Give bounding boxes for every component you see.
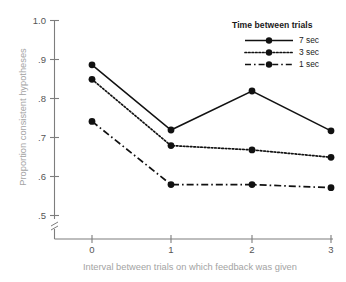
series-1-sec xyxy=(89,118,335,191)
y-tick-label: 1.0 xyxy=(20,15,46,26)
legend-label: 7 sec xyxy=(299,35,319,45)
x-tick-label: 1 xyxy=(161,244,181,255)
data-point xyxy=(249,181,256,188)
data-point xyxy=(328,127,335,134)
data-point xyxy=(89,76,96,83)
legend-item-1-sec: 1 sec xyxy=(244,58,340,70)
axis-break-icon xyxy=(51,222,58,230)
legend-item-3-sec: 3 sec xyxy=(244,46,340,58)
data-point xyxy=(168,127,175,134)
legend-item-7-sec: 7 sec xyxy=(244,34,340,46)
data-point xyxy=(328,154,335,161)
x-tick-label: 3 xyxy=(321,244,341,255)
data-point xyxy=(89,61,96,68)
data-point xyxy=(328,184,335,191)
data-point xyxy=(89,118,96,125)
x-axis-label: Interval between trials on which feedbac… xyxy=(40,262,340,272)
series-7-sec xyxy=(89,61,335,134)
chart-legend: Time between trials 7 sec 3 sec xyxy=(228,20,340,70)
legend-swatch-dashdot-line xyxy=(244,59,294,70)
x-tick-label: 0 xyxy=(82,244,102,255)
y-axis-label-container: Proportion consistent hypotheses xyxy=(0,0,22,240)
chart-figure: 1.0 .9 .8 .7 .6 .5 0 1 2 3 Proportion co… xyxy=(0,0,346,282)
y-axis-label: Proportion consistent hypotheses xyxy=(18,28,28,206)
y-tick-label: .5 xyxy=(20,210,46,221)
data-point xyxy=(168,142,175,149)
x-tick-label: 2 xyxy=(242,244,262,255)
data-point xyxy=(249,147,256,154)
series-3-sec xyxy=(89,76,335,161)
legend-swatch-solid-line xyxy=(244,35,294,46)
series-7-sec-line xyxy=(92,65,331,131)
legend-swatch-dotted-line xyxy=(244,47,294,58)
data-point xyxy=(168,181,175,188)
series-3-sec-line xyxy=(92,79,331,157)
data-point xyxy=(249,88,256,95)
legend-label: 3 sec xyxy=(299,47,319,57)
legend-title: Time between trials xyxy=(232,20,340,30)
legend-label: 1 sec xyxy=(299,59,319,69)
